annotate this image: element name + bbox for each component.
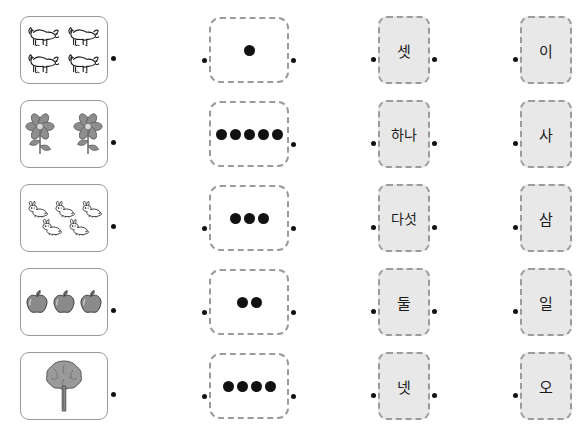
worksheet-row: 하나 사 [0,92,584,177]
rabbit-icon [66,218,90,236]
connector-dot-right[interactable] [111,224,116,229]
dot-pip [244,129,255,140]
sino-numeral-box[interactable]: 사 [520,100,572,168]
connector-dot-right[interactable] [432,393,437,398]
worksheet-row: 다섯 삼 [0,176,584,261]
picture-box[interactable] [20,352,108,420]
dot-pip [244,213,255,224]
dots-cell [209,176,301,261]
connector-dot-left[interactable] [513,309,518,314]
dot-pip [230,129,241,140]
sino-numeral-label: 삼 [539,208,553,229]
native-numeral-label: 셋 [397,40,411,61]
sino-numeral-label: 일 [539,292,553,313]
native-numeral-label: 넷 [397,376,411,397]
dots-group [230,213,269,224]
picture-group [21,353,107,419]
native-numeral-box[interactable]: 셋 [378,16,430,84]
dots-box[interactable] [209,17,289,83]
native-numeral-label: 하나 [391,124,417,144]
apple-icon [79,289,103,315]
picture-box[interactable] [20,184,108,252]
tree-icon [43,359,85,413]
dots-cell [209,260,301,345]
sino-numeral-box[interactable]: 일 [520,268,572,336]
connector-dot-right[interactable] [432,225,437,230]
connector-dot-left[interactable] [371,225,376,230]
dot-pip [216,129,227,140]
dots-cell [209,92,301,177]
connector-dot-left[interactable] [202,58,207,63]
dots-box[interactable] [209,353,289,419]
dog-icon [26,24,62,50]
connector-dot-right[interactable] [111,392,116,397]
connector-dot-right[interactable] [432,141,437,146]
connector-dot-right[interactable] [432,309,437,314]
dot-pip [244,45,255,56]
connector-dot-right[interactable] [291,142,296,147]
connector-dot-left[interactable] [513,393,518,398]
connector-dot-right[interactable] [111,56,116,61]
sino-numeral-box[interactable]: 오 [520,352,572,420]
rabbit-icon [39,218,63,236]
picture-cell [20,92,112,177]
picture-cell [20,260,112,345]
worksheet-sheet: 셋 이 하나 [0,0,584,425]
dots-box[interactable] [209,185,289,251]
native-numeral-box[interactable]: 다섯 [378,184,430,252]
picture-box[interactable] [20,268,108,336]
native-numeral-box[interactable]: 하나 [378,100,430,168]
native-numeral-box[interactable]: 둘 [378,268,430,336]
picture-box[interactable] [20,100,108,168]
rabbit-icon [25,200,49,218]
sino-numeral-cell: 오 [520,344,584,425]
sino-numeral-cell: 이 [520,8,584,93]
dot-pip [265,381,276,392]
connector-dot-left[interactable] [371,309,376,314]
dots-box[interactable] [209,269,289,335]
flower-icon [69,111,107,157]
connector-dot-right[interactable] [111,308,116,313]
connector-dot-right[interactable] [432,57,437,62]
dot-pip [237,297,248,308]
sino-numeral-box[interactable]: 이 [520,16,572,84]
dot-pip [251,297,262,308]
connector-dot-right[interactable] [291,226,296,231]
native-numeral-cell: 셋 [378,8,448,93]
connector-dot-left[interactable] [202,394,207,399]
sino-numeral-label: 사 [539,124,553,145]
native-numeral-cell: 다섯 [378,176,448,261]
connector-dot-left[interactable] [371,57,376,62]
picture-group [21,185,107,251]
connector-dot-right[interactable] [291,394,296,399]
worksheet-row: 둘 일 [0,260,584,345]
native-numeral-label: 다섯 [391,208,417,228]
picture-box[interactable] [20,16,108,84]
connector-dot-left[interactable] [371,141,376,146]
dog-icon [26,51,62,77]
dots-cell [209,344,301,425]
apple-icon [25,289,49,315]
native-numeral-box[interactable]: 넷 [378,352,430,420]
connector-dot-right[interactable] [291,310,296,315]
connector-dot-right[interactable] [111,140,116,145]
connector-dot-right[interactable] [291,58,296,63]
native-numeral-label: 둘 [397,292,411,313]
dot-pip [272,129,283,140]
connector-dot-left[interactable] [202,226,207,231]
connector-dot-left[interactable] [371,393,376,398]
dog-icon [66,24,102,50]
dot-pip [251,381,262,392]
apple-icon [52,289,76,315]
sino-numeral-box[interactable]: 삼 [520,184,572,252]
picture-group [21,101,107,167]
dot-pip [237,381,248,392]
picture-cell [20,344,112,425]
connector-dot-left[interactable] [513,225,518,230]
connector-dot-left[interactable] [513,57,518,62]
dots-group [216,129,283,140]
connector-dot-left[interactable] [202,310,207,315]
dots-group [244,45,255,56]
connector-dot-left[interactable] [513,141,518,146]
dots-box[interactable] [209,101,289,167]
